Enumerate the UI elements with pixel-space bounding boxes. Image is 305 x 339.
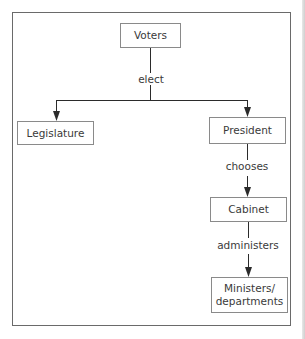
edge-label-chooses: chooses [225, 160, 270, 172]
arrowhead-president-icon [244, 107, 251, 117]
page-edge [302, 0, 305, 339]
node-president-label: President [223, 124, 272, 137]
node-voters-label: Voters [134, 29, 167, 42]
node-ministers-departments: Ministers/ departments [211, 277, 288, 313]
node-ministers-label-line1: Ministers/ [224, 282, 275, 295]
arrowhead-cabinet-icon [244, 187, 251, 197]
node-ministers-label-line2: departments [216, 295, 284, 308]
node-legislature: Legislature [17, 121, 94, 145]
node-voters: Voters [120, 23, 181, 48]
node-cabinet-label: Cabinet [228, 203, 269, 216]
arrowhead-ministers-icon [245, 267, 252, 277]
arrowhead-legislature-icon [53, 111, 60, 121]
edge-label-administers: administers [216, 239, 280, 251]
node-president: President [209, 117, 286, 144]
edge-label-elect: elect [137, 73, 165, 85]
node-cabinet: Cabinet [210, 197, 287, 222]
node-legislature-label: Legislature [27, 127, 85, 140]
